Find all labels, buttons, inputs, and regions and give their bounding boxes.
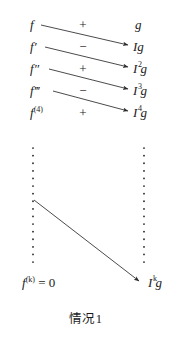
sign-row-2: − — [73, 40, 93, 53]
integral-order-5: 4 — [138, 104, 142, 113]
integral-base-2: Ig — [133, 39, 144, 54]
terminal-integral-label: I gk — [148, 276, 166, 289]
figure-caption: 情况1 — [0, 308, 171, 327]
derivative-label-row-4: f‴ — [30, 84, 39, 97]
terminal-derivative-order: (k) — [26, 275, 35, 284]
arrow-terminal — [34, 200, 139, 281]
derivative-order-5: (4) — [34, 105, 43, 114]
integral-label-row-2: Ig — [133, 40, 144, 53]
integral-base-1: g — [135, 17, 142, 32]
sign-row-4: − — [73, 84, 93, 97]
derivative-label-row-2: f′ — [30, 40, 36, 53]
integral-order-4: 3 — [138, 82, 142, 91]
derivative-prime-3: ″ — [34, 61, 39, 76]
sign-row-1: + — [73, 18, 93, 31]
terminal-derivative-equation: f(k) = 0 — [22, 276, 55, 289]
integral-label-row-1: g — [135, 18, 142, 31]
derivative-label-row-1: f — [30, 18, 34, 31]
derivative-base-1: f — [30, 17, 34, 32]
terminal-integral-order: k — [153, 274, 157, 283]
integral-label-row-3: I g2 — [133, 62, 151, 75]
integral-label-row-5: I g4 — [133, 106, 151, 119]
sign-row-3: + — [73, 62, 93, 75]
derivative-prime-4: ‴ — [34, 83, 39, 98]
derivative-prime-2: ′ — [34, 39, 37, 54]
integral-label-row-4: I g3 — [133, 84, 151, 97]
derivative-label-row-5: f(4) — [30, 106, 43, 119]
derivative-label-row-3: f″ — [30, 62, 39, 75]
tabular-integration-figure: f f′ f″ f‴ f(4) + − + − + g Ig I g2 I g3… — [0, 0, 171, 337]
terminal-equals-zero: = 0 — [35, 275, 55, 290]
integral-order-3: 2 — [138, 60, 142, 69]
sign-row-5: + — [73, 106, 93, 119]
